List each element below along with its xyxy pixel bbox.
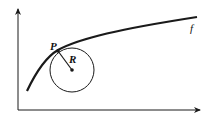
diagram-canvas: P R f [0,0,214,122]
label-f: f [190,22,195,34]
label-p: P [50,40,57,52]
label-r: R [68,53,76,65]
point-p-dot [56,49,60,53]
curvature-circle-diagram: P R f [0,0,214,122]
center-dot [70,68,74,72]
